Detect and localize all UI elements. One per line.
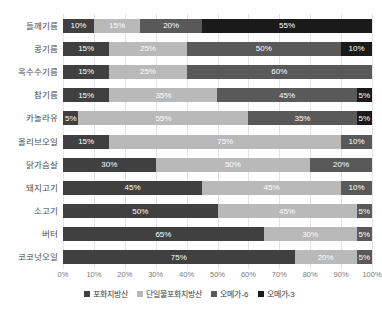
bar-row: 15%25%60% xyxy=(63,65,372,79)
bar-segment: 45% xyxy=(63,181,202,195)
legend-label: 단일불포화지방산 xyxy=(146,288,202,299)
x-tick-label: 30% xyxy=(148,270,163,279)
bar-segment: 35% xyxy=(248,111,356,125)
x-tick-label: 70% xyxy=(272,270,287,279)
bar-row: 75%20%5% xyxy=(63,250,372,264)
x-tick-label: 20% xyxy=(117,270,132,279)
bar-segment: 10% xyxy=(341,42,372,56)
legend-label: 오메가-3 xyxy=(267,288,295,299)
category-label: 버터 xyxy=(0,227,58,241)
x-tick-label: 10% xyxy=(86,270,101,279)
category-label: 닭가슴살 xyxy=(0,158,58,172)
bar-segment: 15% xyxy=(63,88,109,102)
bar-segment: 5% xyxy=(357,88,372,102)
bar-segment: 35% xyxy=(109,88,217,102)
bar-segment: 45% xyxy=(217,88,356,102)
category-axis: 들깨기름콩기름옥수수기름참기름카놀라유올리브오일닭가슴살돼지고기소고기버터코코넛… xyxy=(0,14,58,269)
bar-segment: 30% xyxy=(63,158,156,172)
bar-segment: 75% xyxy=(109,135,341,149)
x-axis: 0%10%20%30%40%50%60%70%80%90%100% xyxy=(63,270,372,282)
bar-segment: 65% xyxy=(63,227,264,241)
bar-segment: 15% xyxy=(63,135,109,149)
bar-rows: 10%15%20%55%15%25%50%10%15%25%60%15%35%4… xyxy=(63,14,372,269)
legend-swatch-icon xyxy=(211,291,217,297)
bar-row: 15%25%50%10% xyxy=(63,42,372,56)
legend-label: 오메가-6 xyxy=(220,288,248,299)
legend-swatch-icon xyxy=(84,291,90,297)
bar-segment: 75% xyxy=(63,250,295,264)
bar-segment: 45% xyxy=(218,204,357,218)
legend-label: 포화지방산 xyxy=(93,288,128,299)
bar-row: 30%50%20% xyxy=(63,158,372,172)
bar-segment: 15% xyxy=(63,42,109,56)
chart-title xyxy=(0,0,379,5)
category-label: 들깨기름 xyxy=(0,19,58,33)
legend-item[interactable]: 단일불포화지방산 xyxy=(137,288,202,299)
legend-swatch-icon xyxy=(258,291,264,297)
bar-row: 5%55%35%5% xyxy=(63,111,372,125)
bar-row: 50%45%5% xyxy=(63,204,372,218)
category-label: 옥수수기름 xyxy=(0,65,58,79)
legend-item[interactable]: 포화지방산 xyxy=(84,288,128,299)
x-tick-label: 100% xyxy=(362,270,381,279)
plot-area: 10%15%20%55%15%25%50%10%15%25%60%15%35%4… xyxy=(63,14,372,269)
bar-segment: 25% xyxy=(109,65,186,79)
bar-segment: 5% xyxy=(357,111,372,125)
bar-segment: 50% xyxy=(63,204,218,218)
category-label: 참기름 xyxy=(0,88,58,102)
bar-segment: 50% xyxy=(156,158,311,172)
bar-segment: 15% xyxy=(63,65,109,79)
legend-swatch-icon xyxy=(137,291,143,297)
x-tick-label: 0% xyxy=(58,270,69,279)
bar-row: 65%30%5% xyxy=(63,227,372,241)
bar-segment: 25% xyxy=(109,42,186,56)
bar-segment: 20% xyxy=(310,158,372,172)
bar-segment: 55% xyxy=(78,111,248,125)
bar-segment: 10% xyxy=(341,135,372,149)
bar-segment: 5% xyxy=(357,227,372,241)
x-tick-label: 80% xyxy=(303,270,318,279)
bar-segment: 10% xyxy=(341,181,372,195)
category-label: 소고기 xyxy=(0,204,58,218)
category-label: 코코넛오일 xyxy=(0,250,58,264)
bar-segment: 10% xyxy=(63,19,94,33)
bar-row: 45%45%10% xyxy=(63,181,372,195)
category-label: 콩기름 xyxy=(0,42,58,56)
bar-segment: 30% xyxy=(264,227,357,241)
legend-item[interactable]: 오메가-6 xyxy=(211,288,248,299)
category-label: 카놀라유 xyxy=(0,111,58,125)
bar-segment: 15% xyxy=(94,19,140,33)
x-tick-label: 50% xyxy=(210,270,225,279)
x-tick-label: 90% xyxy=(334,270,349,279)
bar-segment: 5% xyxy=(357,204,372,218)
legend: 포화지방산단일불포화지방산오메가-6오메가-3 xyxy=(0,288,379,299)
bar-segment: 5% xyxy=(63,111,78,125)
bar-segment: 5% xyxy=(357,250,372,264)
bar-segment: 20% xyxy=(295,250,357,264)
gridline xyxy=(372,14,373,269)
bar-segment: 55% xyxy=(202,19,372,33)
x-tick-label: 60% xyxy=(241,270,256,279)
bar-row: 15%75%10% xyxy=(63,135,372,149)
bar-segment: 60% xyxy=(187,65,372,79)
category-label: 돼지고기 xyxy=(0,181,58,195)
legend-item[interactable]: 오메가-3 xyxy=(258,288,295,299)
bar-row: 10%15%20%55% xyxy=(63,19,372,33)
x-tick-label: 40% xyxy=(179,270,194,279)
bar-segment: 20% xyxy=(140,19,202,33)
bar-row: 15%35%45%5% xyxy=(63,88,372,102)
bar-segment: 50% xyxy=(187,42,342,56)
category-label: 올리브오일 xyxy=(0,135,58,149)
bar-segment: 45% xyxy=(202,181,341,195)
